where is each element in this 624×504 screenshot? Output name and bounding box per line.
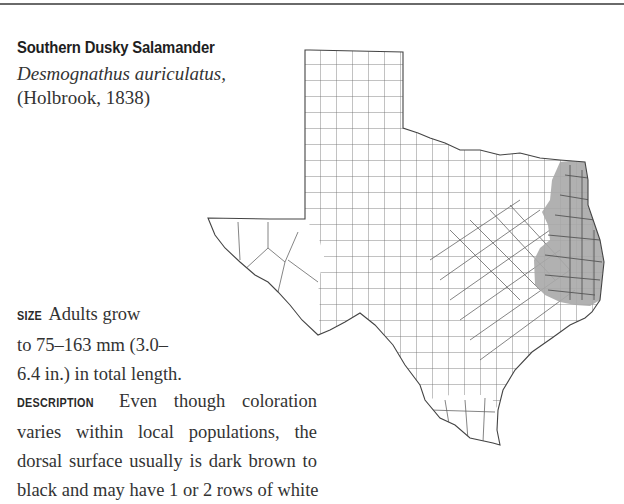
description-section: DESCRIPTION Even though coloration varie…: [17, 387, 317, 504]
size-line: Adults grow: [48, 304, 140, 324]
description-line: black and may have 1 or 2 rows of white: [17, 476, 317, 504]
description-line: dorsal surface usually is dark brown to: [17, 447, 317, 476]
description-line: Even though coloration: [119, 391, 317, 411]
description-label: DESCRIPTION: [17, 389, 94, 418]
size-section: SIZE Adults grow to 75–163 mm (3.0– 6.4 …: [17, 300, 182, 389]
description-line: varies within local populations, the: [17, 418, 317, 447]
size-line: 6.4 in.) in total length.: [17, 360, 182, 389]
size-label: SIZE: [17, 302, 42, 331]
size-line: to 75–163 mm (3.0–: [17, 331, 182, 360]
